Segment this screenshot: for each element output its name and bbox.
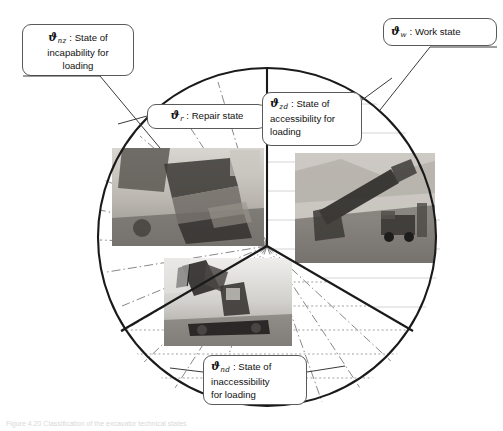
leader-work — [380, 47, 497, 110]
leader-lines — [0, 0, 503, 431]
leader-inaccessibility-left — [170, 368, 203, 372]
leader-repair — [118, 116, 147, 124]
figure-container: ϑnz : State of incapability for loading … — [0, 0, 503, 431]
leader-inaccessibility-right — [307, 366, 345, 372]
leader-accessibility — [362, 78, 392, 100]
figure-caption: Figure 4.20 Classification of the excava… — [6, 419, 426, 428]
leader-incapability — [23, 76, 160, 148]
